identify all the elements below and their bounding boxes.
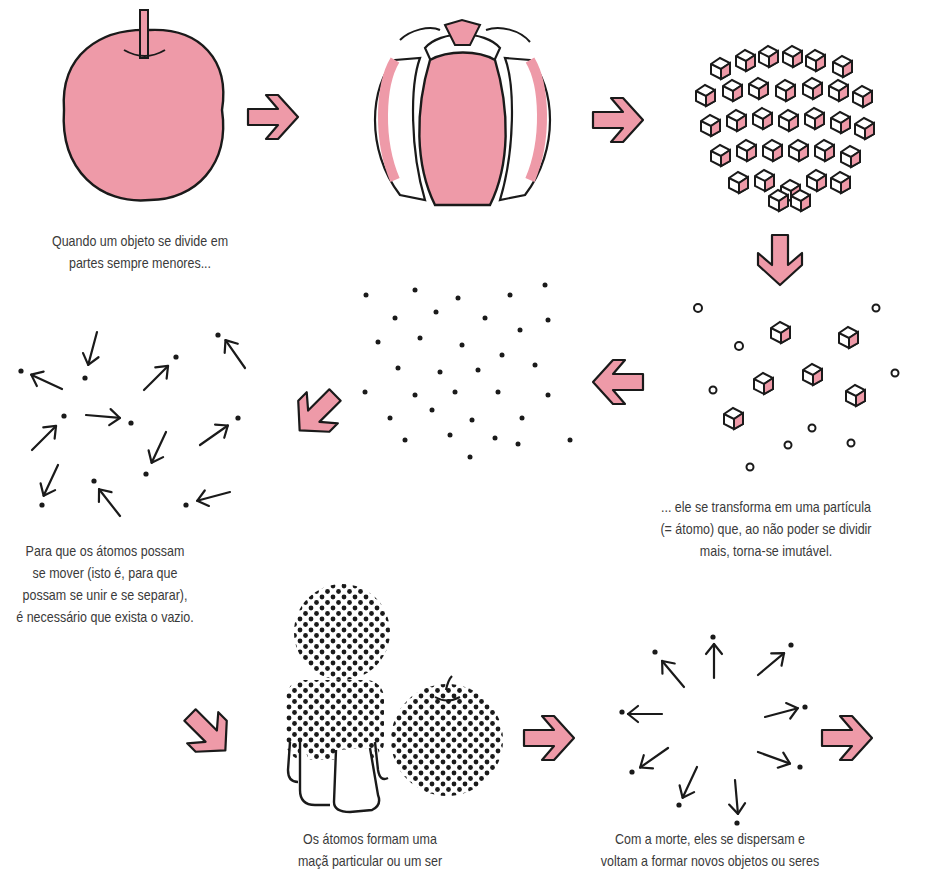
diagram-canvas — [0, 0, 926, 876]
moving-atoms-icon — [18, 330, 251, 521]
caption-line: voltam a formar novos objetos ou seres — [581, 850, 839, 872]
cube-fragments-icon — [696, 46, 874, 211]
caption-line: partes sempre menores... — [28, 252, 252, 274]
apple-icon — [64, 10, 224, 200]
caption-void: Para que os átomos possam se mover (isto… — [6, 540, 204, 628]
arrow-right-icon — [593, 98, 643, 142]
caption-division: Quando um objeto se divide em partes sem… — [28, 230, 252, 274]
arrow-right-icon — [524, 716, 574, 760]
arrow-right-icon — [248, 95, 298, 139]
caption-line: Com a morte, eles se dispersam e — [581, 828, 839, 850]
caption-atom: ... ele se transforma em uma partícula (… — [637, 496, 895, 562]
apple-segments-icon — [375, 20, 550, 205]
caption-line: possam se unir e se separar), — [6, 584, 204, 606]
caption-line: ... ele se transforma em uma partícula — [637, 496, 895, 518]
arrow-down-icon — [758, 235, 802, 285]
scattered-cubes-icon — [694, 304, 899, 471]
caption-line: é necessário que exista o vazio. — [6, 606, 204, 628]
arrow-down-right-icon — [174, 699, 240, 765]
caption-line: se mover (isto é, para que — [6, 562, 204, 584]
caption-death: Com a morte, eles se dispersam e voltam … — [581, 828, 839, 872]
caption-line: maçã particular ou um ser — [284, 850, 456, 872]
caption-formation: Os átomos formam uma maçã particular ou … — [284, 828, 456, 872]
arrow-right-icon — [822, 716, 872, 760]
caption-line: Para que os átomos possam — [6, 540, 204, 562]
arrow-left-icon — [593, 360, 643, 404]
caption-line: Os átomos formam uma — [284, 828, 456, 850]
dotted-person-apple-icon — [286, 584, 503, 812]
dispersing-atoms-icon — [619, 634, 807, 825]
caption-line: mais, torna-se imutável. — [637, 540, 895, 562]
arrow-down-left-icon — [284, 379, 350, 445]
dot-field-icon — [363, 283, 573, 460]
caption-line: Quando um objeto se divide em — [28, 230, 252, 252]
caption-line: (= átomo) que, ao não poder se dividir — [637, 518, 895, 540]
